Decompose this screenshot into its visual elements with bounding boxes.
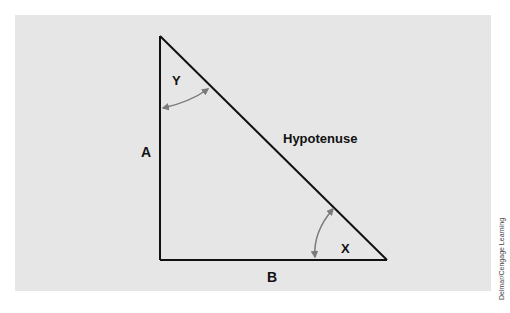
- side-b-label: B: [267, 269, 277, 285]
- image-credit: Delmar/Cengage Learning: [498, 218, 505, 300]
- angle-y-label: Y: [172, 73, 181, 88]
- hypotenuse-line: [160, 36, 387, 260]
- hypotenuse-label: Hypotenuse: [283, 131, 357, 146]
- triangle: [160, 36, 387, 260]
- angle-x-label: X: [341, 241, 350, 256]
- right-triangle-diagram: Y A Hypotenuse X B: [0, 0, 510, 313]
- angle-y-arrow-icon: [163, 89, 208, 108]
- angle-x-arrow-icon: [315, 209, 333, 257]
- side-a-label: A: [141, 144, 151, 160]
